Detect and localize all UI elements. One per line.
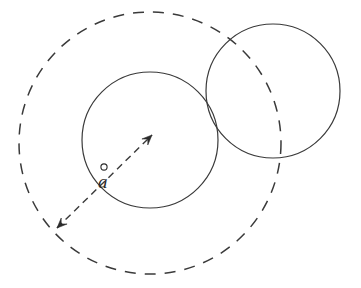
- figure-background: [0, 0, 361, 288]
- vector-label-a: a: [98, 171, 108, 192]
- figure-canvas: a: [0, 0, 361, 288]
- figure-root: a: [0, 0, 361, 288]
